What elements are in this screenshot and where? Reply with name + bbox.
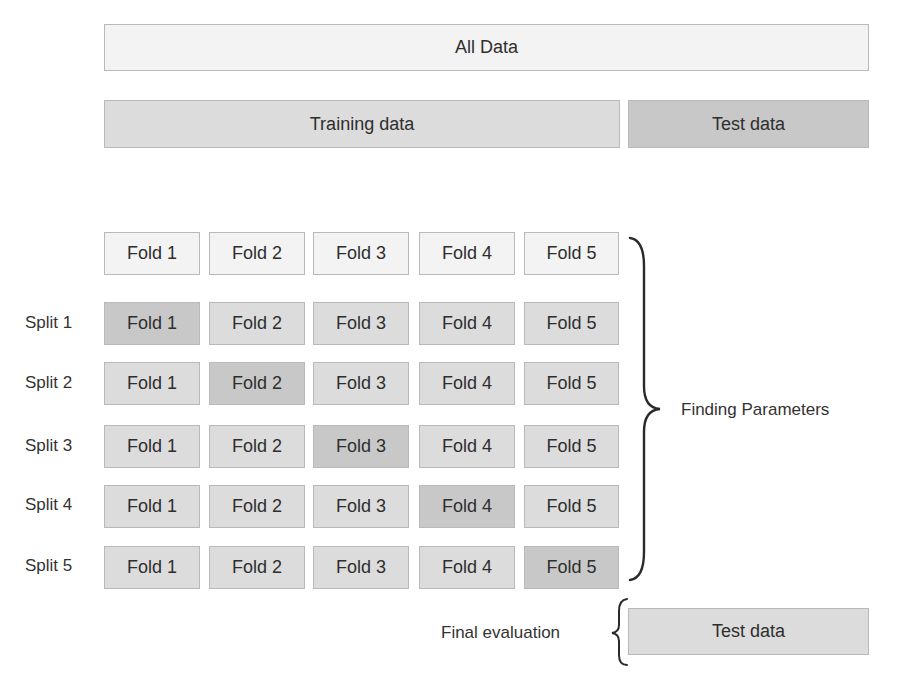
fold-cell: Fold 5	[524, 362, 619, 405]
fold-label: Fold 5	[546, 313, 596, 334]
fold-cell-test: Fold 2	[209, 362, 305, 405]
fold-label: Fold 5	[546, 557, 596, 578]
fold-label: Fold 4	[442, 243, 492, 264]
header-fold-4: Fold 4	[419, 232, 515, 275]
test-data-label: Test data	[712, 114, 785, 135]
finding-parameters-label: Finding Parameters	[681, 400, 829, 420]
split-label: Split 4	[25, 495, 72, 515]
training-data-label: Training data	[310, 114, 414, 135]
fold-cell: Fold 4	[419, 362, 515, 405]
fold-label: Fold 4	[442, 313, 492, 334]
fold-cell: Fold 3	[313, 546, 409, 589]
fold-cell: Fold 4	[419, 425, 515, 468]
fold-cell: Fold 5	[524, 485, 619, 528]
final-test-data-bar: Test data	[628, 608, 869, 655]
fold-label: Fold 2	[232, 313, 282, 334]
fold-cell: Fold 1	[104, 425, 200, 468]
fold-label: Fold 4	[442, 496, 492, 517]
fold-cell: Fold 5	[524, 302, 619, 345]
header-fold-2: Fold 2	[209, 232, 305, 275]
fold-cell-test: Fold 3	[313, 425, 409, 468]
split-label: Split 3	[25, 436, 72, 456]
fold-label: Fold 4	[442, 557, 492, 578]
fold-label: Fold 5	[546, 243, 596, 264]
header-fold-3: Fold 3	[313, 232, 409, 275]
fold-cell: Fold 2	[209, 302, 305, 345]
fold-label: Fold 1	[127, 313, 177, 334]
fold-label: Fold 3	[336, 436, 386, 457]
fold-cell: Fold 4	[419, 302, 515, 345]
fold-label: Fold 2	[232, 373, 282, 394]
fold-label: Fold 1	[127, 373, 177, 394]
fold-label: Fold 5	[546, 373, 596, 394]
final-evaluation-label: Final evaluation	[441, 623, 560, 643]
fold-label: Fold 3	[336, 373, 386, 394]
fold-label: Fold 4	[442, 373, 492, 394]
fold-cell: Fold 1	[104, 546, 200, 589]
fold-label: Fold 3	[336, 496, 386, 517]
fold-label: Fold 5	[546, 436, 596, 457]
fold-cell-test: Fold 4	[419, 485, 515, 528]
fold-cell: Fold 3	[313, 302, 409, 345]
header-fold-1: Fold 1	[104, 232, 200, 275]
fold-label: Fold 2	[232, 557, 282, 578]
fold-cell: Fold 3	[313, 485, 409, 528]
fold-label: Fold 1	[127, 243, 177, 264]
fold-cell: Fold 2	[209, 546, 305, 589]
fold-label: Fold 2	[232, 243, 282, 264]
fold-cell: Fold 1	[104, 362, 200, 405]
test-data-bar: Test data	[628, 100, 869, 148]
fold-label: Fold 1	[127, 436, 177, 457]
left-brace-icon	[609, 597, 629, 667]
fold-cell-test: Fold 5	[524, 546, 619, 589]
final-test-data-label: Test data	[712, 621, 785, 642]
fold-label: Fold 1	[127, 496, 177, 517]
all-data-bar: All Data	[104, 24, 869, 71]
fold-cell: Fold 1	[104, 485, 200, 528]
fold-label: Fold 1	[127, 557, 177, 578]
training-data-bar: Training data	[104, 100, 620, 148]
fold-label: Fold 5	[546, 496, 596, 517]
fold-cell: Fold 3	[313, 362, 409, 405]
fold-cell: Fold 2	[209, 425, 305, 468]
right-brace-icon	[628, 236, 668, 582]
split-label: Split 5	[25, 556, 72, 576]
fold-label: Fold 3	[336, 243, 386, 264]
fold-cell: Fold 2	[209, 485, 305, 528]
fold-cell-test: Fold 1	[104, 302, 200, 345]
fold-label: Fold 2	[232, 496, 282, 517]
fold-cell: Fold 5	[524, 425, 619, 468]
split-label: Split 1	[25, 313, 72, 333]
split-label: Split 2	[25, 373, 72, 393]
fold-label: Fold 3	[336, 313, 386, 334]
fold-label: Fold 2	[232, 436, 282, 457]
all-data-label: All Data	[455, 37, 518, 58]
header-fold-5: Fold 5	[524, 232, 619, 275]
fold-label: Fold 4	[442, 436, 492, 457]
fold-cell: Fold 4	[419, 546, 515, 589]
fold-label: Fold 3	[336, 557, 386, 578]
